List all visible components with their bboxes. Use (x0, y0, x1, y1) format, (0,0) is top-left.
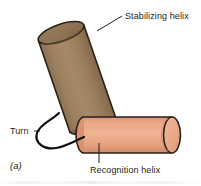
recognition-helix-body (83, 117, 172, 153)
figure-panel-a: Stabilizing helix Recognition helix Turn… (0, 0, 201, 186)
label-stabilizing-helix: Stabilizing helix (125, 11, 189, 21)
recognition-helix-cylinder (76, 117, 181, 153)
label-recognition-helix: Recognition helix (90, 165, 160, 175)
recognition-helix-right-cap (164, 117, 181, 153)
protein-helix-turn-helix-diagram (0, 0, 201, 186)
panel-letter: (a) (10, 160, 22, 171)
label-turn: Turn (10, 126, 29, 136)
stabilizing-helix-leader-line (97, 16, 122, 31)
scan-artifact-strip (0, 181, 201, 184)
